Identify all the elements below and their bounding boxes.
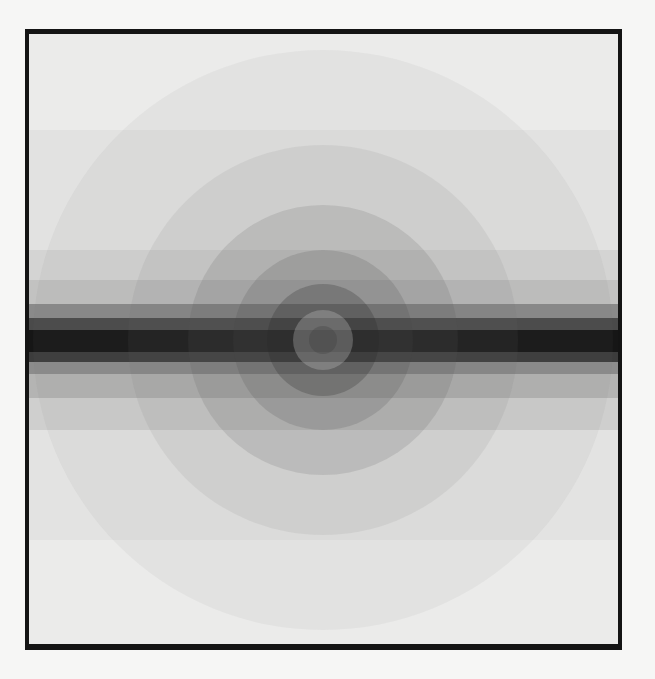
painting-canvas — [29, 34, 618, 644]
concentric-circle — [309, 326, 337, 354]
